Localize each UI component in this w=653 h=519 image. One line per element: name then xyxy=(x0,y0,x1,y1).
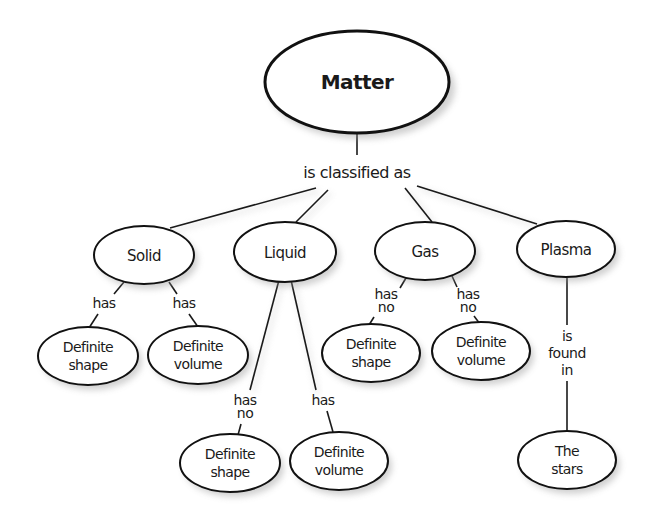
node-label-line1: Definite xyxy=(205,446,255,462)
node-label-line2: shape xyxy=(351,354,390,370)
node-label-line1: The xyxy=(554,443,579,459)
edge-hasno-to-liquid-shape xyxy=(238,424,241,435)
node-solid-definite-volume: Definite volume xyxy=(148,326,252,389)
relation-gas-hasno-volume-line2: no xyxy=(460,299,476,315)
edge-has-to-liquid-volume xyxy=(327,411,333,432)
node-plasma: Plasma xyxy=(517,221,619,282)
node-label-matter: Matter xyxy=(321,70,394,94)
node-label-solid: Solid xyxy=(127,247,161,265)
edge-liquid-to-hasno xyxy=(250,280,279,390)
node-gas-definite-shape: Definite shape xyxy=(322,324,424,387)
node-gas-definite-volume: Definite volume xyxy=(432,322,534,385)
node-label-line2: shape xyxy=(210,464,249,480)
edge-liquid-to-has xyxy=(291,280,316,390)
relation-plasma-line2: found xyxy=(548,345,586,361)
edge-has-1-to-solid-shape xyxy=(89,314,98,328)
node-label-plasma: Plasma xyxy=(540,241,591,259)
edge-relation-to-gas xyxy=(405,188,432,222)
node-liquid-definite-volume: Definite volume xyxy=(290,432,392,495)
relation-plasma-line3: in xyxy=(561,362,573,378)
node-label-line1: Definite xyxy=(314,444,364,460)
node-label-line2: volume xyxy=(174,356,222,372)
node-gas: Gas xyxy=(375,222,479,285)
node-label-gas: Gas xyxy=(411,243,439,261)
node-label-line2: volume xyxy=(457,352,505,368)
node-plasma-the-stars: The stars xyxy=(518,431,620,494)
node-liquid-definite-shape: Definite shape xyxy=(180,434,284,497)
node-label-line1: Definite xyxy=(456,334,506,350)
node-label-line1: Definite xyxy=(63,339,113,355)
node-solid: Solid xyxy=(94,226,198,289)
node-label-line2: shape xyxy=(68,357,107,373)
relation-plasma-line1: is xyxy=(562,328,572,344)
relation-gas-hasno-shape-line2: no xyxy=(378,299,394,315)
node-label-line2: stars xyxy=(551,461,583,477)
node-label-line2: volume xyxy=(315,462,363,478)
edge-relation-to-plasma xyxy=(417,186,537,224)
matter-concept-map: Matter is classified as Solid Liquid Gas… xyxy=(0,0,653,519)
relation-is-classified-as: is classified as xyxy=(303,163,411,182)
node-label-line1: Definite xyxy=(173,338,223,354)
node-label-liquid: Liquid xyxy=(264,244,306,262)
node-label-line1: Definite xyxy=(346,336,396,352)
relation-liquid-has-volume: has xyxy=(311,392,334,408)
node-solid-definite-shape: Definite shape xyxy=(38,327,142,390)
node-liquid: Liquid xyxy=(234,222,340,287)
relation-solid-has-volume: has xyxy=(172,295,195,311)
node-matter: Matter xyxy=(265,31,455,139)
relation-liquid-hasno-shape-line2: no xyxy=(237,405,253,421)
relation-solid-has-shape: has xyxy=(92,295,115,311)
